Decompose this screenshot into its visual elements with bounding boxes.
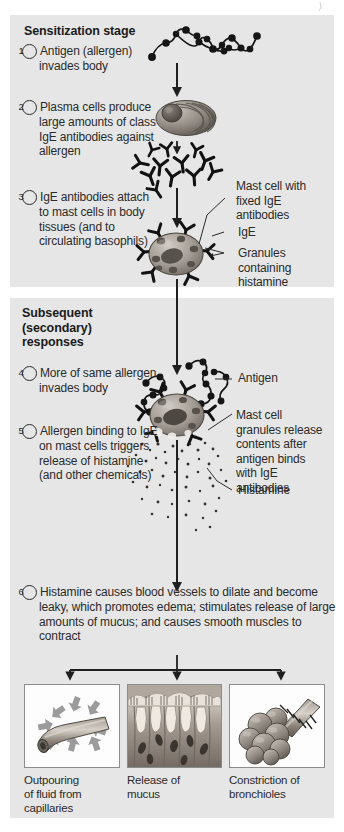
heading-subsequent-responses: Subsequent (secondary) responses — [22, 306, 162, 350]
callout-release-l4: antigen binds — [236, 452, 340, 467]
step-1: 1Antigen (allergen) invades body — [22, 44, 167, 74]
caption-capillary-l3: capillaries — [24, 801, 124, 815]
callout-granules-histamine: Granules containing histamine — [238, 246, 334, 290]
callout-mast-cell-fixed-ige-l3: antibodies — [236, 208, 336, 223]
caption-mucus-l1: Release of — [127, 773, 225, 787]
caption-bronchiole: Constriction of bronchioles — [229, 773, 335, 801]
callout-release-l3: contents after — [236, 437, 340, 452]
callout-release-l2: granules release — [236, 423, 340, 438]
callout-granules-l3: histamine — [238, 275, 334, 290]
step-2: 2Plasma cells produce large amounts of c… — [22, 100, 164, 159]
figure-canvas: Sensitization stage 1Antigen (allergen) … — [0, 0, 344, 832]
step-4-number: 4 — [22, 366, 37, 381]
step-5-text: Allergen binding to IgE on mast cells tr… — [39, 424, 157, 482]
step-2-number: 2 — [22, 100, 37, 115]
callout-mast-cell-fixed-ige-l2: fixed IgE — [236, 194, 336, 209]
caption-mucus-l2: mucus — [127, 787, 225, 801]
heading-subsequent-l3: responses — [22, 335, 162, 350]
capillary-leak-illustration — [25, 685, 119, 767]
caption-capillary: Outpouring of fluid from capillaries — [24, 773, 124, 815]
heading-subsequent-l2: (secondary) — [22, 321, 162, 336]
caption-bronchiole-l2: bronchioles — [229, 787, 335, 801]
goblet-cell-epithelium-illustration — [128, 685, 221, 767]
callout-granules-l1: Granules — [238, 246, 334, 261]
heading-subsequent-l1: Subsequent — [22, 306, 162, 321]
step-2-text: Plasma cells produce large amounts of cl… — [39, 100, 156, 158]
step-6-number: 6 — [22, 585, 37, 600]
step-5: 5Allergen binding to IgE on mast cells t… — [22, 424, 167, 483]
outcome-image-bronchiole — [229, 684, 325, 768]
step-3-text: IgE antibodies attach to mast cells in b… — [39, 190, 149, 248]
callout-granules-l2: containing — [238, 261, 334, 276]
step-4-text: More of same allergen invades body — [39, 366, 156, 395]
callout-release-l1: Mast cell — [236, 408, 340, 423]
callout-antigen: Antigen — [238, 371, 318, 386]
step-6-text: Histamine causes blood vessels to dilate… — [39, 585, 335, 643]
outcome-image-mucus — [127, 684, 222, 768]
callout-mast-cell-fixed-ige-l1: Mast cell with — [236, 179, 336, 194]
alveoli-bronchiole-illustration — [230, 685, 324, 767]
heading-sensitization-stage: Sensitization stage — [24, 24, 204, 39]
callout-mast-cell-fixed-ige: Mast cell with fixed IgE antibodies — [236, 179, 336, 223]
callout-histamine: Histamine — [238, 483, 322, 498]
step-3-number: 3 — [22, 190, 37, 205]
caption-capillary-l2: of fluid from — [24, 787, 124, 801]
step-1-text: Antigen (allergen) invades body — [39, 44, 132, 73]
caption-capillary-l1: Outpouring — [24, 773, 124, 787]
step-1-number: 1 — [22, 44, 37, 59]
caption-bronchiole-l1: Constriction of — [229, 773, 335, 787]
step-3: 3IgE antibodies attach to mast cells in … — [22, 190, 161, 249]
step-6: 6Histamine causes blood vessels to dilat… — [22, 585, 339, 644]
step-4: 4More of same allergen invades body — [22, 366, 159, 396]
callout-release-l5: with IgE — [236, 466, 340, 481]
outcome-image-capillary — [24, 684, 120, 768]
step-5-number: 5 — [22, 424, 37, 439]
callout-ige: IgE — [238, 225, 298, 240]
scan-artifact-speck — [317, 2, 324, 11]
caption-mucus: Release of mucus — [127, 773, 225, 801]
